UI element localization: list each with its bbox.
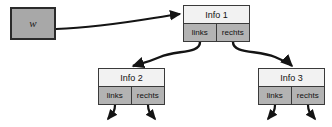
- source-node-w: w: [10, 7, 56, 40]
- node-info1-pointers: links rechts: [184, 24, 249, 41]
- node-info3-title: Info 3: [259, 69, 324, 87]
- node-info2-pointers: links rechts: [99, 87, 164, 104]
- node-info1-title: Info 1: [184, 6, 249, 24]
- node-info2-left-pointer: links: [99, 87, 132, 104]
- diagram-canvas: w Info 1 links rechts Info 2 links recht…: [0, 0, 332, 127]
- edge-info1-links-to-info2: [133, 42, 200, 66]
- node-info3-left-pointer: links: [259, 87, 292, 104]
- node-info1-right-pointer: rechts: [217, 24, 250, 41]
- node-info3-pointers: links rechts: [259, 87, 324, 104]
- node-info2-title: Info 2: [99, 69, 164, 87]
- node-info1-left-pointer: links: [184, 24, 217, 41]
- node-info1: Info 1 links rechts: [183, 5, 250, 42]
- node-info2-right-pointer: rechts: [132, 87, 165, 104]
- edge-info2-links-dangling: [108, 105, 115, 119]
- node-info3: Info 3 links rechts: [258, 68, 325, 105]
- edge-w-to-info1: [56, 14, 180, 29]
- edge-info3-rechts-dangling: [308, 105, 315, 119]
- node-info3-right-pointer: rechts: [292, 87, 325, 104]
- source-node-label: w: [29, 18, 36, 29]
- node-info2: Info 2 links rechts: [98, 68, 165, 105]
- edge-info2-rechts-dangling: [148, 105, 155, 119]
- edge-info3-links-dangling: [268, 105, 275, 119]
- edge-info1-rechts-to-info3: [233, 42, 292, 66]
